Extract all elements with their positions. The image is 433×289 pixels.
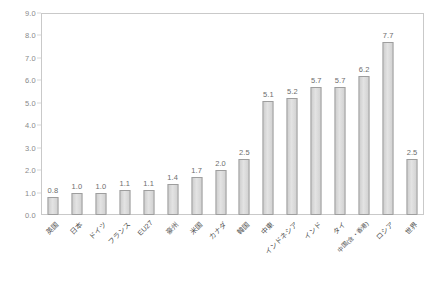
x-axis-label: ロシア <box>373 219 395 241</box>
x-axis-label: EU27 <box>136 219 154 237</box>
bar <box>191 177 202 215</box>
bar-chart: 0.01.02.03.04.05.06.07.08.09.0 0.81.01.0… <box>0 0 433 289</box>
y-axis-tick-mark <box>37 57 41 58</box>
y-axis-tick-mark <box>37 147 41 148</box>
y-axis-tick-mark <box>37 13 41 14</box>
bars-layer: 0.81.01.01.11.11.41.72.02.55.15.25.75.76… <box>41 13 424 215</box>
bar-value-label: 1.4 <box>167 173 178 182</box>
x-axis-label-slot: 世界 <box>400 215 424 289</box>
x-axis-label-slot: 英国 <box>41 215 65 289</box>
y-axis-tick-label: 5.0 <box>25 98 36 107</box>
bar <box>239 159 250 215</box>
x-axis-label-slot: 韓国 <box>233 215 257 289</box>
bar <box>311 87 322 215</box>
x-axis-labels: 英国日本ドイツフランスEU27豪州米国カナダ韓国中東インドネシアインドタイ中国(… <box>41 215 424 289</box>
bar-value-label: 1.7 <box>191 166 202 175</box>
bar-value-label: 2.5 <box>239 148 250 157</box>
bar-slot: 2.5 <box>400 13 424 215</box>
bar-slot: 7.7 <box>376 13 400 215</box>
y-axis-tick-label: 4.0 <box>25 121 36 130</box>
x-axis-label-slot: 日本 <box>65 215 89 289</box>
bar-slot: 5.1 <box>256 13 280 215</box>
bar <box>167 184 178 215</box>
bar <box>143 190 154 215</box>
y-axis-tick-label: 6.0 <box>25 76 36 85</box>
x-axis-label: カナダ <box>205 219 227 241</box>
x-axis-label: 世界 <box>402 219 419 236</box>
y-axis-tick-label: 1.0 <box>25 188 36 197</box>
y-axis-tick-mark <box>37 102 41 103</box>
bar-slot: 1.1 <box>113 13 137 215</box>
bar <box>263 101 274 215</box>
x-axis-label: 日本 <box>67 219 84 236</box>
x-axis-label-slot: ロシア <box>376 215 400 289</box>
bar <box>335 87 346 215</box>
x-axis-label-slot: 豪州 <box>161 215 185 289</box>
y-axis-tick-mark <box>37 35 41 36</box>
bar <box>383 42 394 215</box>
y-axis-tick-label: 8.0 <box>25 31 36 40</box>
bar-slot: 6.2 <box>352 13 376 215</box>
bar-value-label: 1.1 <box>143 179 154 188</box>
x-axis-label: インド <box>301 219 323 241</box>
bar-value-label: 6.2 <box>359 65 370 74</box>
x-axis-label: 中東 <box>258 219 275 236</box>
bar-slot: 1.0 <box>65 13 89 215</box>
x-axis-label: 豪州 <box>163 219 180 236</box>
bar-slot: 0.8 <box>41 13 65 215</box>
x-axis-label-slot: ドイツ <box>89 215 113 289</box>
y-axis-tick-mark <box>37 192 41 193</box>
y-axis-tick-label: 0.0 <box>25 211 36 220</box>
x-axis-label: 韓国 <box>234 219 251 236</box>
bar <box>287 98 298 215</box>
bar-slot: 1.7 <box>185 13 209 215</box>
x-axis-label-slot: フランス <box>113 215 137 289</box>
x-axis-label-slot: 中国(含・香港) <box>352 215 376 289</box>
bar <box>119 190 130 215</box>
bar-value-label: 5.1 <box>263 90 274 99</box>
bar-value-label: 7.7 <box>383 31 394 40</box>
bar-slot: 2.0 <box>209 13 233 215</box>
bar-slot: 5.7 <box>304 13 328 215</box>
bar <box>71 193 82 215</box>
bar <box>95 193 106 215</box>
y-axis-tick-mark <box>37 170 41 171</box>
y-axis-tick-label: 7.0 <box>25 53 36 62</box>
bar-value-label: 2.0 <box>215 159 226 168</box>
bar <box>47 197 58 215</box>
bar-value-label: 1.0 <box>72 182 83 191</box>
y-axis-tick-mark <box>37 80 41 81</box>
x-axis-label: 米国 <box>187 219 204 236</box>
y-axis: 0.01.02.03.04.05.06.07.08.09.0 <box>0 13 41 215</box>
bar <box>407 159 418 215</box>
y-axis-tick-label: 9.0 <box>25 9 36 18</box>
x-axis-label-slot: インドネシア <box>280 215 304 289</box>
x-axis-label: 英国 <box>43 219 60 236</box>
x-axis-label-slot: EU27 <box>137 215 161 289</box>
bar <box>359 76 370 215</box>
bar-slot: 1.0 <box>89 13 113 215</box>
bar-value-label: 5.7 <box>311 76 322 85</box>
bar-value-label: 0.8 <box>48 186 59 195</box>
x-axis-label-slot: インド <box>304 215 328 289</box>
bar-value-label: 2.5 <box>407 148 418 157</box>
bar <box>215 170 226 215</box>
bar-slot: 1.4 <box>161 13 185 215</box>
bar-slot: 5.2 <box>280 13 304 215</box>
bar-slot: 5.7 <box>328 13 352 215</box>
x-axis-label-slot: カナダ <box>209 215 233 289</box>
x-axis-label-slot: 米国 <box>185 215 209 289</box>
bar-slot: 2.5 <box>233 13 257 215</box>
bar-value-label: 1.0 <box>95 182 106 191</box>
x-axis-label: タイ <box>330 219 347 236</box>
y-axis-tick-label: 3.0 <box>25 143 36 152</box>
y-axis-tick-label: 2.0 <box>25 166 36 175</box>
bar-value-label: 5.2 <box>287 87 298 96</box>
y-axis-tick-mark <box>37 125 41 126</box>
bar-slot: 1.1 <box>137 13 161 215</box>
bar-value-label: 5.7 <box>335 76 346 85</box>
bar-value-label: 1.1 <box>119 179 130 188</box>
